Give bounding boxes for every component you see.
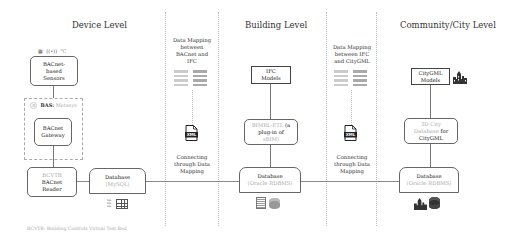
bacnet-gateway-box: BACnet Gateway	[34, 118, 72, 146]
divider-2	[218, 12, 219, 226]
bcvtb-reader-box: BCVTB BACnet Reader	[27, 167, 77, 197]
city-db-icons	[414, 196, 444, 210]
mapping1-heading: Data Mapping between BACnet and IFC	[168, 37, 216, 65]
wireless-icon: ((•))	[46, 48, 57, 54]
sensor-icons: ▦ ((•)) ℃	[38, 48, 66, 54]
thermometer-icon: ℃	[61, 48, 67, 54]
oracle-database-box-building: Database (Oracle RDBMS)	[239, 167, 301, 193]
divider-3	[326, 12, 327, 226]
oracle-database-box-city: Database (Oracle RDBMS)	[399, 167, 459, 193]
citygml-models-box: CityGML Models	[411, 68, 450, 85]
building-icon: ▦	[38, 48, 43, 54]
city-skyline-icon	[453, 69, 467, 83]
title-device-level: Device Level	[72, 20, 127, 30]
bas-header: ⚙ BAS: Metasys	[30, 102, 77, 109]
mapping2-dotted-line	[351, 90, 352, 125]
ifc-models-box: IFC Models	[251, 66, 291, 84]
office-building-icon	[256, 197, 266, 209]
mapping2-field-grid	[334, 70, 367, 86]
title-city-level: Community/City Level	[400, 20, 496, 30]
mapping1-field-grid	[174, 70, 207, 86]
title-building-level: Building Level	[245, 20, 307, 30]
mysql-database-box: Database (MySQL)	[89, 168, 146, 194]
gateway-to-reader-line	[53, 146, 54, 168]
xml-file-icon-2: XML	[344, 125, 357, 141]
bacnet-sensors-box: BACnet- based Sensors	[30, 56, 78, 86]
bimrl-etl-box: BIMRL-ETL (a plug-in of sBIM)	[244, 119, 298, 145]
3d-city-database-box: 3D City Database for CityGML	[404, 118, 458, 144]
city-skyline-icon-small	[414, 197, 427, 210]
mapping2-heading: Data Mapping between IFC and CityGML	[328, 44, 376, 65]
mapping1-dotted-line	[192, 90, 193, 125]
bcvtb-footnote: BCVTB: Building Controls Virtual Test Be…	[27, 226, 127, 231]
divider-1	[165, 12, 166, 226]
3dcity-to-db-line	[430, 144, 431, 168]
divider-4	[376, 12, 377, 226]
xml-file-icon: XML	[185, 125, 198, 141]
ifc-to-plugin-line	[270, 84, 271, 120]
mapping1-connect-text: Connecting through Data Mapping	[168, 154, 216, 175]
sql-table-icon: SQLSQLSQL	[107, 199, 129, 209]
citygml-to-3dcity-line	[430, 85, 431, 119]
database-cylinder-icon	[269, 198, 280, 209]
mapping2-connect-text: Connecting through Data Mapping	[328, 154, 376, 175]
gear-icon: ⚙	[30, 102, 37, 109]
building-db-icons	[256, 197, 284, 209]
database-cylinder-icon-city	[429, 197, 440, 209]
sensor-to-bas-line	[53, 86, 54, 98]
plugin-to-db-line	[270, 145, 271, 167]
